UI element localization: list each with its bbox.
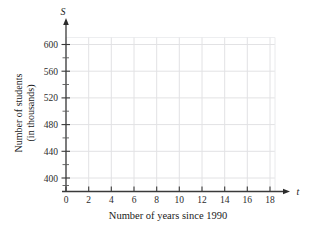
y-tick-label-600: 600 bbox=[44, 40, 59, 50]
x-tick-label-14: 14 bbox=[220, 195, 230, 205]
x-tick-label-16: 16 bbox=[243, 195, 253, 205]
x-tick-label-2: 2 bbox=[86, 195, 91, 205]
chart-figure: 600 560 520 480 440 400 0 2 4 6 8 10 12 … bbox=[0, 0, 310, 237]
y-axis-title-line1: Number of students bbox=[13, 73, 24, 152]
x-tick-label-18: 18 bbox=[265, 195, 275, 205]
x-axis-variable-label: t bbox=[297, 186, 300, 197]
y-tick-label-400: 400 bbox=[44, 174, 59, 184]
x-tick-label-6: 6 bbox=[132, 195, 137, 205]
coordinate-grid-plot: 600 560 520 480 440 400 0 2 4 6 8 10 12 … bbox=[0, 0, 310, 237]
y-axis-title: Number of students (in thousands) bbox=[13, 73, 37, 152]
y-axis-title-line2: (in thousands) bbox=[25, 85, 37, 142]
y-tick-label-440: 440 bbox=[44, 147, 59, 157]
y-tick-label-560: 560 bbox=[44, 67, 59, 77]
y-tick-label-520: 520 bbox=[44, 93, 59, 103]
x-axis-title: Number of years since 1990 bbox=[109, 210, 227, 221]
x-tick-label-4: 4 bbox=[109, 195, 114, 205]
x-tick-label-10: 10 bbox=[175, 195, 185, 205]
x-tick-label-12: 12 bbox=[197, 195, 207, 205]
x-tick-label-8: 8 bbox=[154, 195, 159, 205]
x-tick-label-0: 0 bbox=[64, 195, 69, 205]
y-axis-variable-label: S bbox=[61, 6, 66, 17]
y-tick-label-480: 480 bbox=[44, 120, 59, 130]
